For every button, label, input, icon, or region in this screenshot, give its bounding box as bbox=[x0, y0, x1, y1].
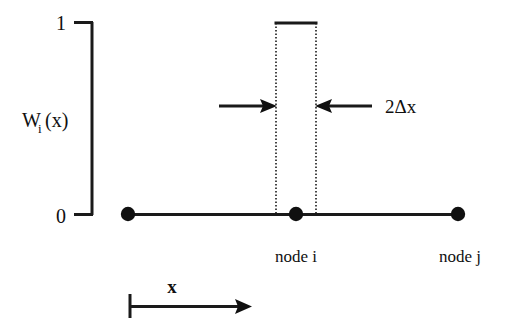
y-axis bbox=[74, 22, 93, 215]
x-direction-arrow bbox=[130, 294, 252, 318]
weighting-function-diagram: 1 0 W i (x) 2Δx node i node j x bbox=[0, 0, 507, 336]
figure-root: 1 0 W i (x) 2Δx node i node j x bbox=[0, 0, 507, 336]
y-axis-label-subscript: i bbox=[38, 121, 42, 136]
y-tick-label-bottom: 0 bbox=[56, 205, 66, 227]
x-axis-label: x bbox=[167, 276, 177, 297]
y-axis-label: W i (x) bbox=[22, 109, 68, 136]
y-tick-label-top: 1 bbox=[56, 12, 66, 34]
node-label-i: node i bbox=[275, 247, 317, 266]
node-dot-i bbox=[289, 207, 303, 221]
node-label-j: node j bbox=[439, 247, 481, 266]
top-hat-pulse bbox=[275, 23, 318, 214]
width-measure-arrows bbox=[219, 99, 372, 113]
y-axis-label-suffix: (x) bbox=[45, 109, 68, 132]
pulse-width-label: 2Δx bbox=[385, 96, 417, 117]
node-dot-j bbox=[451, 207, 465, 221]
node-dot-left bbox=[121, 207, 135, 221]
